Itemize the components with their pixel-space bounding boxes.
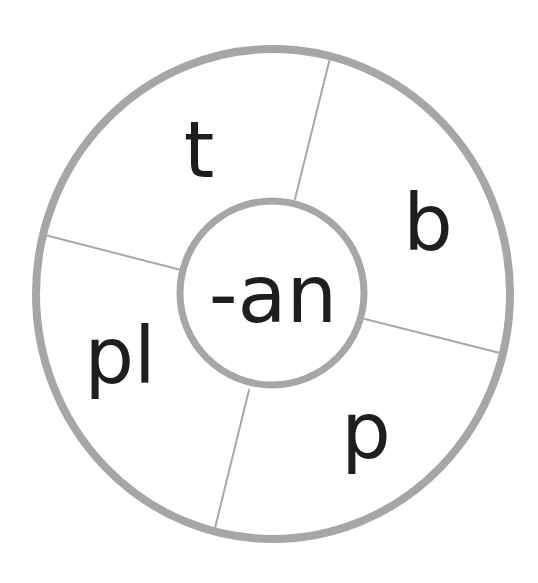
segment-label-b: b [403,178,453,268]
segment-label-p: p [341,386,391,476]
divider-top [295,58,330,199]
divider-right [365,319,500,353]
word-wheel: t b p pl -an [0,0,538,583]
divider-left [45,235,181,270]
segment-label-t: t [184,105,215,195]
divider-bottom [215,390,249,528]
segment-label-pl: pl [84,311,155,401]
center-word-ending: -an [209,248,338,341]
